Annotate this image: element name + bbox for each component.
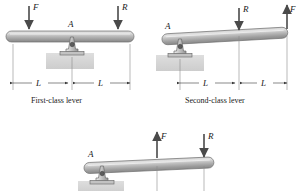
pivot-label-a: A [164, 21, 171, 31]
force-label-r: R [242, 4, 249, 14]
figure-canvas: A F R L L First-class lever [0, 0, 300, 191]
force-label-f: F [160, 131, 167, 141]
force-arrow-f: F [157, 131, 167, 158]
dimension-l-left: L [13, 77, 68, 88]
force-arrow-r: R [118, 2, 128, 29]
force-label-r: R [207, 131, 214, 141]
dimension-label-l-2: L [260, 78, 266, 88]
pivot-label-a: A [67, 19, 74, 29]
force-arrow-r: R [204, 131, 214, 157]
force-label-f: F [289, 4, 296, 14]
lever-classes-figure: A F R L L First-class lever [0, 0, 300, 191]
third-class-lever-diagram: A F R [78, 131, 214, 191]
force-arrow-f: F [287, 4, 296, 29]
force-label-r: R [121, 2, 128, 12]
pivot-label-a: A [87, 149, 94, 159]
dimension-l-left: L [180, 77, 235, 88]
ground-block [46, 53, 94, 69]
caption-second-class: Second-class lever [185, 96, 245, 105]
dimension-l-right: L [243, 77, 287, 88]
dimension-label-l: L [35, 78, 41, 88]
caption-first-class: First-class lever [31, 96, 82, 105]
dimension-label-l-2: L [97, 78, 103, 88]
second-class-lever-diagram: A R F L L Second-class lever [156, 4, 296, 105]
force-arrow-r: R [239, 4, 249, 30]
dimension-l-right: L [76, 77, 130, 88]
dimension-label-l: L [202, 78, 208, 88]
force-arrow-f: F [29, 2, 39, 29]
force-label-f: F [32, 2, 39, 12]
first-class-lever-diagram: A F R L L First-class lever [6, 2, 134, 105]
